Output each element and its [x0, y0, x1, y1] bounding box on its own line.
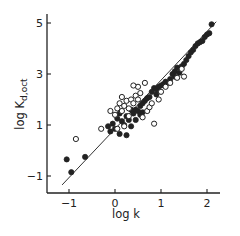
- open-data-point: [119, 94, 124, 99]
- y-tick-label: 3: [36, 68, 43, 81]
- open-data-point: [135, 97, 140, 102]
- plot-area: [62, 22, 216, 185]
- filled-data-point: [64, 157, 69, 162]
- open-data-point: [119, 108, 124, 113]
- filled-data-point: [209, 22, 214, 27]
- open-data-point: [115, 126, 120, 131]
- open-data-point: [138, 91, 143, 96]
- open-data-point: [131, 83, 136, 88]
- y-axis-title-main: log K: [13, 100, 27, 129]
- x-axis-title: log k: [112, 207, 140, 221]
- filled-data-point: [133, 117, 138, 122]
- filled-data-point: [147, 94, 152, 99]
- x-tick-label: 2: [204, 197, 211, 210]
- open-data-point: [156, 97, 161, 102]
- open-data-point: [99, 126, 104, 131]
- open-data-point: [163, 84, 168, 89]
- open-data-point: [108, 108, 113, 113]
- open-data-point: [175, 75, 180, 80]
- filled-data-point: [207, 31, 212, 36]
- y-tick-label: 1: [36, 119, 43, 132]
- svg-text:log Kd,oct: log Kd,oct: [13, 78, 29, 130]
- open-data-point: [112, 112, 117, 117]
- open-data-point: [142, 80, 147, 85]
- y-tick-label: −1: [27, 170, 43, 183]
- filled-data-point: [129, 124, 134, 129]
- open-data-point: [181, 74, 186, 79]
- open-data-point: [140, 115, 145, 120]
- open-data-point: [126, 114, 131, 119]
- open-data-point: [149, 101, 154, 106]
- x-tick-label: 1: [158, 197, 165, 210]
- filled-data-point: [124, 133, 129, 138]
- open-data-point: [73, 136, 78, 141]
- y-tick-label: 5: [36, 17, 43, 30]
- filled-data-point: [117, 131, 122, 136]
- scatter-chart: −1012 −1135 log k log Kd,oct: [0, 0, 240, 236]
- x-tick-label: −1: [61, 197, 77, 210]
- open-data-point: [122, 124, 127, 129]
- open-data-point: [152, 121, 157, 126]
- y-axis-title-subscript: d,oct: [19, 78, 29, 101]
- y-axis-title: log Kd,oct: [13, 78, 29, 130]
- filled-data-point: [110, 121, 115, 126]
- open-data-point: [126, 106, 131, 111]
- open-data-point: [158, 89, 163, 94]
- filled-data-point: [83, 154, 88, 159]
- open-data-point: [131, 101, 136, 106]
- open-data-point: [179, 66, 184, 71]
- open-data-point: [168, 80, 173, 85]
- filled-data-point: [69, 170, 74, 175]
